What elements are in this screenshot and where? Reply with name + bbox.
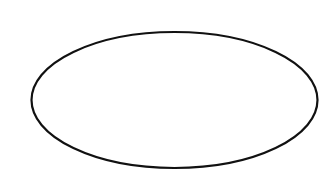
diagram-canvas (0, 0, 331, 180)
ellipse-shape (32, 32, 318, 168)
diagram-svg (0, 0, 331, 180)
